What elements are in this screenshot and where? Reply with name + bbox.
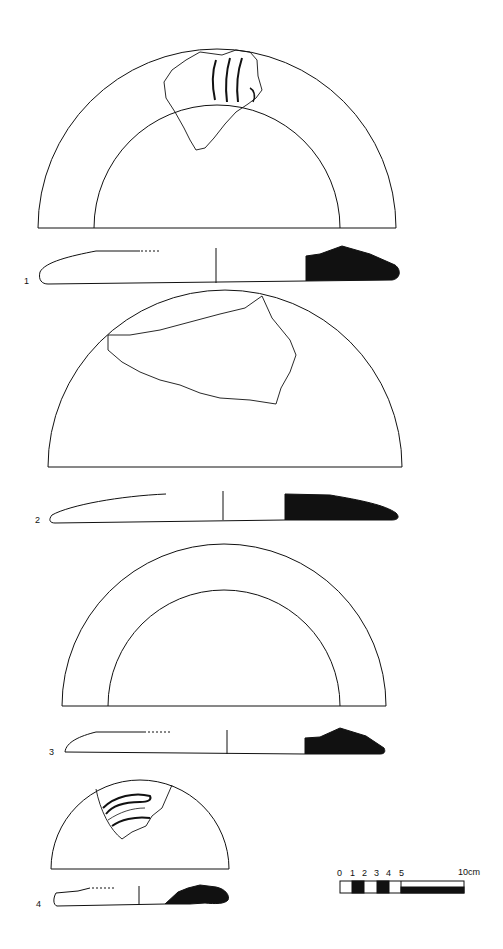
figure-3-plan (62, 544, 386, 706)
figure-2-number: 2 (35, 515, 40, 525)
figure-4-plan (51, 780, 229, 869)
drawing-plate (0, 0, 503, 949)
figure-3-section (65, 728, 385, 754)
figure-1-plan (38, 49, 396, 228)
scale-tick-4: 4 (386, 868, 391, 878)
figure-3-number: 3 (49, 747, 54, 757)
scale-tick-0: 0 (337, 868, 342, 878)
figure-2-section (50, 491, 398, 523)
scale-tick-1: 1 (350, 868, 355, 878)
scale-bar (340, 881, 464, 893)
figure-1-number: 1 (24, 276, 29, 286)
scale-tick-5: 5 (399, 868, 404, 878)
figure-4-section (54, 885, 229, 906)
figure-1-section (39, 246, 399, 284)
scale-end-label: 10cm (458, 867, 480, 877)
figure-2-plan (48, 290, 402, 467)
scale-tick-3: 3 (374, 868, 379, 878)
scale-tick-2: 2 (362, 868, 367, 878)
figure-4-number: 4 (36, 899, 41, 909)
